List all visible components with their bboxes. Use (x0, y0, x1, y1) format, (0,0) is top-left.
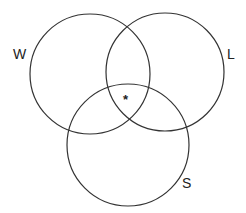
circle-w (30, 14, 150, 134)
intersection-marker: * (123, 93, 128, 106)
label-l: L (227, 47, 235, 61)
label-s: S (182, 176, 191, 190)
label-w: W (13, 47, 26, 61)
circle-l (106, 13, 224, 131)
